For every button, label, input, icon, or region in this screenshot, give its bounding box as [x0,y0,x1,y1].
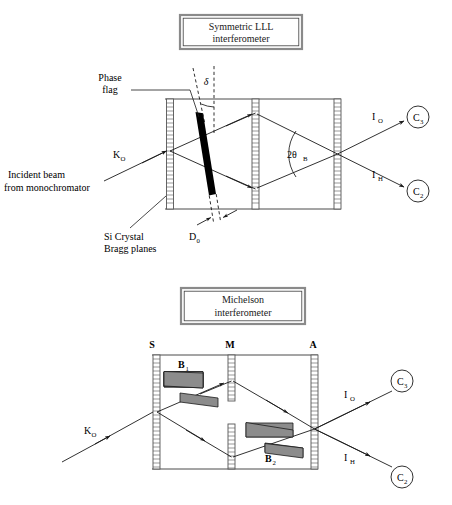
ih-label-sub: H [378,175,383,182]
michelson-detector-c2-label-sub: 2 [404,478,408,485]
lll-title-line1: Symmetric LLL [209,21,274,32]
wedge-b1-label-sub: 1 [186,365,189,372]
lll-title-box: Symmetric LLL interferometer [180,15,302,49]
michelson-title-line1: Michelson [222,294,264,305]
bragg-angle-label-sub: B [303,155,308,162]
delta-label: δ [204,76,209,87]
detector-c2-label: C [413,186,420,197]
blade-m-label: M [225,339,235,350]
michelson-title-line2: interferometer [214,307,272,318]
d0-label: D [189,231,196,242]
michelson-blade-a [311,355,318,469]
michelson-detector-c2-label: C [397,472,404,483]
michelson-ih-label-sub: H [350,458,355,465]
michelson-detector-c3-label: C [397,376,404,387]
michelson-detector-c3-label-sub: 3 [404,382,408,389]
io-label-sub: O [378,117,383,124]
interferometer-figure: Symmetric LLL interferometer [0,0,452,505]
si-crystal-label-line2: Bragg planes [104,243,157,254]
ko-label-sub: O [121,155,126,162]
michelson-ih-label: I [344,452,347,463]
detector-c3-label: C [413,112,420,123]
michelson-detector-c2: C 2 [391,466,413,488]
blade-s-label: S [149,339,155,350]
lll-detector-c3: C 3 [407,106,429,128]
figure-background [0,0,452,505]
lll-blade-left [167,99,174,209]
detector-c3-label-sub: 3 [420,118,424,125]
d0-label-sub: 0 [197,237,201,244]
io-label: I [372,111,375,122]
wedge-b1-label: B [178,359,185,370]
incident-beam-label-line1: Incident beam [8,169,65,180]
lll-blade-middle [252,99,259,209]
bragg-angle-label: 2θ [287,149,297,160]
michelson-io-label: I [344,389,347,400]
lll-detector-c2: C 2 [407,180,429,202]
phase-flag-label-line2: flag [102,84,118,95]
lll-title-line2: interferometer [212,33,270,44]
phase-flag-label-line1: Phase [98,72,122,83]
incident-beam-label-line2: from monochromator [4,182,90,193]
michelson-io-label-sub: O [350,395,355,402]
michelson-ko-label-sub: O [92,431,97,438]
si-crystal-label-line1: Si Crystal [104,231,144,242]
michelson-title-box: Michelson interferometer [181,288,305,324]
michelson-blade-m-lower [228,424,235,469]
michelson-detector-c3: C 3 [391,370,413,392]
wedge-b2-label-sub: 2 [273,459,277,466]
michelson-blade-m-upper [228,355,235,401]
michelson-blade-s [153,355,160,469]
wedge-b2-label: B [265,453,272,464]
ih-label: I [372,169,375,180]
detector-c2-label-sub: 2 [420,192,424,199]
blade-a-label: A [309,339,317,350]
